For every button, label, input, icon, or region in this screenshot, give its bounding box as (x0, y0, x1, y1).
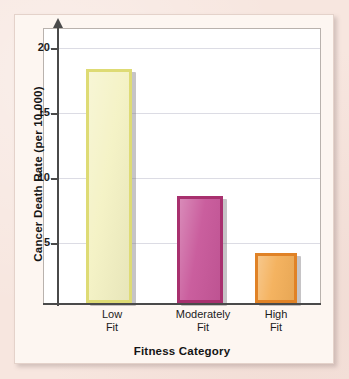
bar-rect-moderately-fit (177, 196, 223, 303)
bar-gloss-high-fit (258, 256, 294, 300)
x-axis-line (43, 303, 321, 305)
x-tick-label-moderately-fit-line1: Moderately (176, 308, 230, 320)
bar-moderately-fit (177, 29, 229, 303)
bar-low-fit (86, 29, 138, 303)
y-axis-title: Cancer Death Rate (per 10,000) (32, 64, 44, 284)
bar-high-fit (255, 29, 303, 303)
x-tick-label-moderately-fit: Moderately Fit (161, 308, 245, 334)
bar-rect-low-fit (86, 69, 132, 303)
x-tick-label-low-fit: Low Fit (70, 308, 154, 334)
x-tick-label-low-fit-line2: Fit (70, 321, 154, 334)
y-tick-mark-15 (51, 113, 58, 115)
x-tick-label-high-fit: High Fit (234, 308, 318, 334)
y-tick-mark-5 (51, 243, 58, 245)
y-axis-line (57, 26, 59, 306)
x-tick-label-low-fit-line1: Low (102, 308, 122, 320)
bar-rect-high-fit (255, 253, 297, 303)
x-tick-labels: Low Fit Moderately Fit High Fit (44, 308, 320, 344)
x-tick-label-high-fit-line2: Fit (234, 321, 318, 334)
y-axis-arrow-icon (53, 18, 63, 28)
x-tick-label-high-fit-line1: High (265, 308, 288, 320)
bar-gloss-moderately-fit (180, 199, 220, 300)
y-tick-mark-20 (51, 48, 58, 50)
y-tick-mark-10 (51, 178, 58, 180)
x-axis-title: Fitness Category (43, 345, 321, 357)
bar-gloss-low-fit (89, 72, 129, 300)
bars-layer (44, 29, 320, 303)
figure-root: 20 15 10 5 Cancer Death Rate (per 10,000… (0, 0, 349, 379)
x-tick-label-moderately-fit-line2: Fit (161, 321, 245, 334)
y-tick-label-20: 20 (24, 41, 50, 53)
